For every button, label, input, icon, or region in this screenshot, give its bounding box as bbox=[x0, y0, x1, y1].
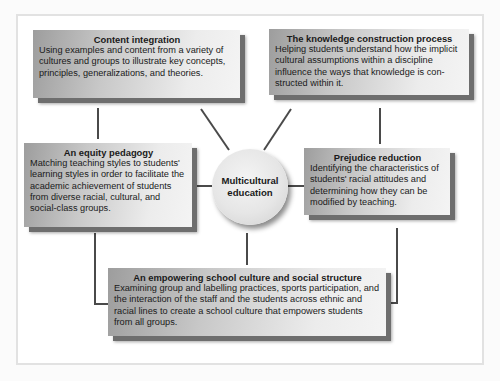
box-description: Using examples and content from a variet… bbox=[39, 45, 235, 79]
center-label-line2: education bbox=[221, 187, 278, 199]
center-label-line1: Multicultural bbox=[221, 175, 278, 187]
box-description: Identifying the characteristics of stude… bbox=[310, 163, 445, 208]
box-prejudice-reduction: Prejudice reduction Identifying the char… bbox=[304, 148, 450, 215]
box-title: Content integration bbox=[39, 34, 235, 45]
box-description: Helping students understand how the impl… bbox=[275, 44, 464, 89]
center-node-multicultural-education: Multicultural education bbox=[212, 149, 288, 225]
box-equity-pedagogy: An equity pedagogy Matching teaching sty… bbox=[24, 143, 192, 227]
box-description: Examining group and labelling practices,… bbox=[114, 283, 381, 328]
box-description: Matching teaching styles to students' le… bbox=[30, 158, 187, 214]
box-empowering-school-culture: An empowering school culture and social … bbox=[108, 268, 386, 336]
box-title: An empowering school culture and social … bbox=[114, 272, 381, 283]
box-title: Prejudice reduction bbox=[310, 152, 445, 163]
box-title: The knowledge construction process bbox=[275, 33, 464, 44]
box-content-integration: Content integration Using examples and c… bbox=[33, 30, 240, 98]
box-knowledge-construction: The knowledge construction process Helpi… bbox=[269, 29, 469, 95]
box-title: An equity pedagogy bbox=[30, 147, 187, 158]
